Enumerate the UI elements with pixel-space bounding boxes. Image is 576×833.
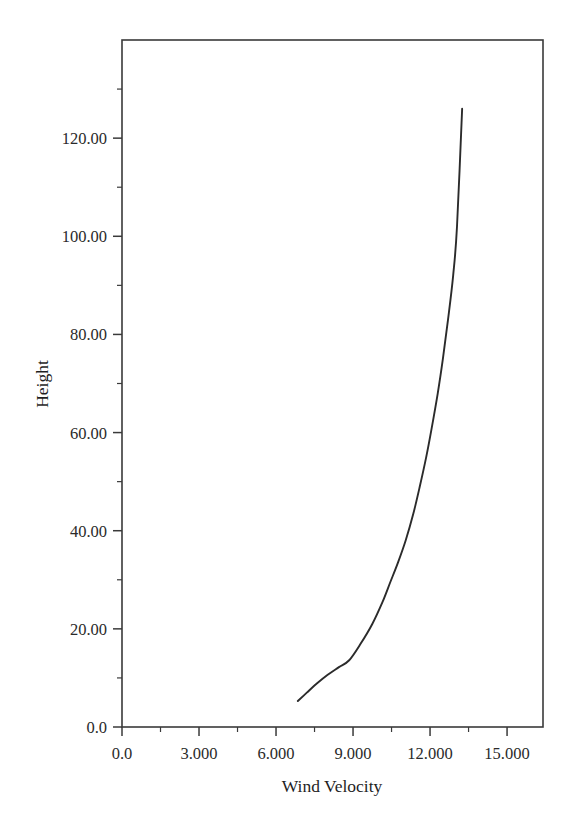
x-tick-label: 12.000	[407, 744, 452, 763]
x-tick-label: 3.000	[180, 744, 217, 763]
y-tick-label: 120.00	[62, 129, 107, 148]
y-tick-label: 0.0	[86, 718, 107, 737]
y-tick-label: 20.00	[70, 620, 107, 639]
chart-figure: 0.03.0006.0009.00012.00015.000 0.020.004…	[0, 0, 576, 833]
x-tick-label: 0.0	[112, 744, 133, 763]
x-tick-label: 6.000	[257, 744, 294, 763]
x-tick-label: 15.000	[484, 744, 529, 763]
y-axis-ticks	[113, 89, 122, 727]
y-axis-title: Height	[32, 360, 52, 408]
x-axis-title: Wind Velocity	[282, 776, 383, 796]
x-axis-tick-labels: 0.03.0006.0009.00012.00015.000	[112, 744, 530, 763]
y-tick-label: 60.00	[70, 424, 107, 443]
y-axis-tick-labels: 0.020.0040.0060.0080.00100.00120.00	[62, 129, 107, 737]
data-series-line	[298, 109, 462, 701]
x-axis-ticks	[122, 727, 507, 736]
y-tick-label: 80.00	[70, 325, 107, 344]
plot-frame	[122, 40, 543, 727]
wind-velocity-height-plot: 0.03.0006.0009.00012.00015.000 0.020.004…	[0, 0, 576, 833]
y-tick-label: 40.00	[70, 522, 107, 541]
y-tick-label: 100.00	[62, 227, 107, 246]
x-tick-label: 9.000	[334, 744, 371, 763]
